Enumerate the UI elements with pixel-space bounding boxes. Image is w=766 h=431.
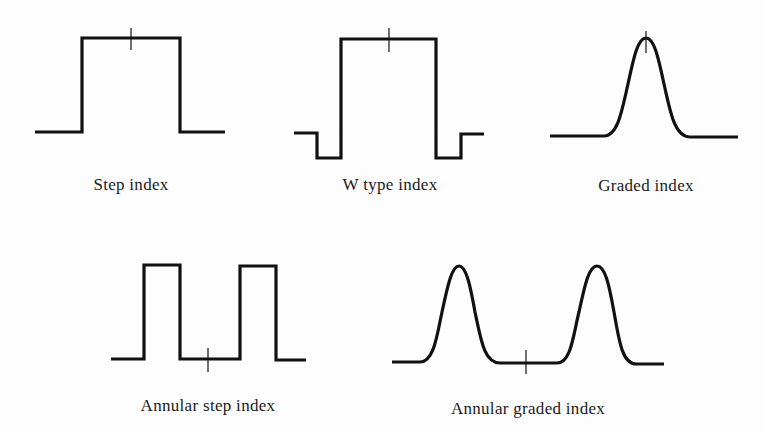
w-type-index-profile bbox=[294, 28, 484, 158]
step-index-label: Step index bbox=[93, 175, 168, 195]
annular-graded-index-curve bbox=[392, 266, 664, 364]
profiles-svg bbox=[0, 0, 766, 431]
w-type-index-curve bbox=[294, 39, 484, 158]
annular-step-index-label: Annular step index bbox=[141, 396, 276, 416]
diagram-canvas: Step index W type index Graded index Ann… bbox=[0, 0, 766, 431]
annular-graded-index-profile bbox=[392, 266, 664, 374]
graded-index-curve bbox=[550, 38, 738, 137]
w-type-index-label: W type index bbox=[343, 175, 438, 195]
annular-step-index-profile bbox=[111, 265, 306, 372]
annular-graded-index-label: Annular graded index bbox=[451, 399, 605, 419]
step-index-profile bbox=[35, 28, 225, 132]
graded-index-profile bbox=[550, 31, 738, 137]
annular-step-index-curve bbox=[111, 265, 306, 360]
step-index-curve bbox=[35, 38, 225, 132]
graded-index-label: Graded index bbox=[598, 176, 694, 196]
